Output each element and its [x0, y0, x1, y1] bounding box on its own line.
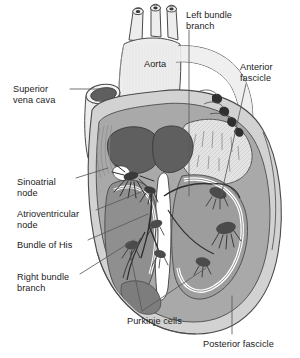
vessel-tube-left [129, 8, 143, 41]
label-right-bundle-branch: Right bundle branch [17, 272, 69, 294]
label-posterior-fascicle: Posterior fascicle [203, 339, 274, 350]
label-superior-vena-cava: Superior vena cava [13, 84, 55, 106]
label-left-bundle-branch: Left bundle branch [186, 10, 232, 32]
heart-body [88, 90, 281, 334]
vessel-tube-right [167, 5, 179, 40]
vessel-tube-middle [151, 4, 162, 37]
label-atrioventricular-node: Atrioventricular node [17, 209, 79, 231]
heart-conduction-diagram: Superior vena cava Aorta Left bundle bra… [0, 0, 300, 358]
label-sinoatrial-node: Sinoatrial node [17, 177, 56, 199]
label-purkinje-cells: Purkinje cells [127, 316, 182, 327]
label-anterior-fascicle: Anterior fascicle [240, 62, 273, 84]
label-aorta: Aorta [144, 59, 166, 70]
label-bundle-of-his: Bundle of His [17, 240, 72, 251]
